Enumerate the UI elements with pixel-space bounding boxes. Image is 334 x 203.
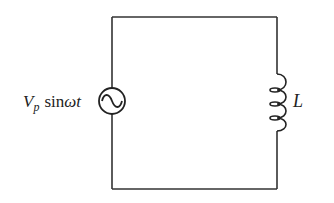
source-label-subscript: p <box>32 100 39 114</box>
wires <box>112 17 277 189</box>
inductor-label: L <box>292 91 303 111</box>
source-label-t: t <box>76 92 82 111</box>
source-label-function: sin <box>44 92 64 111</box>
circuit-diagram: Vpsinωt L <box>0 0 334 203</box>
source-label: Vpsinωt <box>23 92 82 114</box>
ac-source-icon <box>99 88 125 114</box>
inductor-icon <box>270 74 286 131</box>
source-label-omega: ω <box>64 92 76 111</box>
